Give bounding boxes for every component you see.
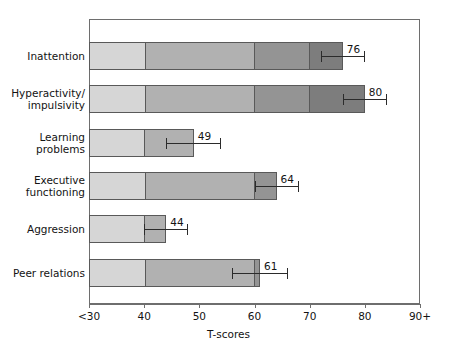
x-tick-mark bbox=[89, 304, 90, 308]
value-bar bbox=[89, 85, 365, 113]
category-label: Hyperactivity/ impulsivity bbox=[0, 87, 85, 112]
bar-value-label: 61 bbox=[264, 261, 277, 272]
x-tick-label: 90+ bbox=[409, 310, 431, 322]
error-bar-line bbox=[343, 99, 387, 100]
error-bar-line bbox=[144, 229, 188, 230]
x-tick-label: 80 bbox=[358, 310, 371, 322]
error-bar-line bbox=[232, 273, 287, 274]
bar-segment bbox=[90, 173, 145, 199]
error-bar-cap bbox=[220, 138, 221, 149]
bar-segment bbox=[90, 43, 145, 69]
error-bar-cap bbox=[166, 138, 167, 149]
bar-value-label: 64 bbox=[281, 174, 294, 185]
error-bar-cap bbox=[287, 268, 288, 279]
bar-segment bbox=[90, 130, 144, 156]
bar-value-label: 80 bbox=[369, 87, 382, 98]
chart-row: Executive functioning64 bbox=[0, 172, 453, 200]
bar-segment bbox=[90, 260, 145, 286]
error-bar-cap bbox=[187, 224, 188, 235]
error-bar-cap bbox=[386, 94, 387, 105]
bar-segment bbox=[145, 173, 254, 199]
value-bar bbox=[89, 172, 277, 200]
chart-row: Hyperactivity/ impulsivity80 bbox=[0, 85, 453, 113]
bar-segment bbox=[254, 86, 309, 112]
x-tick-mark bbox=[199, 304, 200, 308]
x-axis-title: T-scores bbox=[0, 328, 453, 340]
error-bar-line bbox=[321, 56, 365, 57]
bar-segment bbox=[145, 86, 255, 112]
x-tick-label: 50 bbox=[193, 310, 206, 322]
x-tick-label: 40 bbox=[137, 310, 150, 322]
category-label: Peer relations bbox=[0, 267, 85, 280]
error-bar-cap bbox=[298, 181, 299, 192]
error-bar-line bbox=[255, 186, 299, 187]
error-bar-cap bbox=[321, 51, 322, 62]
category-label: Aggression bbox=[0, 223, 85, 236]
error-bar-cap bbox=[255, 181, 256, 192]
error-bar-cap bbox=[343, 94, 344, 105]
x-tick-label: <30 bbox=[78, 310, 100, 322]
category-label: Learning problems bbox=[0, 131, 85, 156]
chart-row: Peer relations61 bbox=[0, 259, 453, 287]
x-tick-label: 70 bbox=[303, 310, 316, 322]
error-bar-cap bbox=[144, 224, 145, 235]
x-tick-mark bbox=[420, 304, 421, 308]
x-tick-mark bbox=[255, 304, 256, 308]
bar-value-label: 49 bbox=[198, 131, 211, 142]
error-bar-cap bbox=[232, 268, 233, 279]
x-tick-label: 60 bbox=[248, 310, 261, 322]
bar-value-label: 76 bbox=[347, 44, 360, 55]
category-label: Executive functioning bbox=[0, 174, 85, 199]
bar-value-label: 44 bbox=[170, 217, 183, 228]
error-bar bbox=[166, 138, 221, 149]
x-tick-mark bbox=[144, 304, 145, 308]
bar-segment bbox=[90, 86, 145, 112]
chart-row: Aggression44 bbox=[0, 215, 453, 243]
error-bar-line bbox=[166, 143, 221, 144]
value-bar bbox=[89, 42, 343, 70]
chart-row: Inattention76 bbox=[0, 42, 453, 70]
bar-segment bbox=[90, 216, 144, 242]
bar-segment bbox=[254, 43, 309, 69]
x-tick-mark bbox=[310, 304, 311, 308]
x-tick-mark bbox=[365, 304, 366, 308]
t-score-bar-chart: Inattention76Hyperactivity/ impulsivity8… bbox=[0, 0, 453, 351]
bar-segment bbox=[145, 43, 254, 69]
x-axis-title-text: T-scores bbox=[207, 328, 250, 340]
error-bar bbox=[232, 268, 287, 279]
chart-row: Learning problems49 bbox=[0, 129, 453, 157]
category-label: Inattention bbox=[0, 50, 85, 63]
error-bar-cap bbox=[364, 51, 365, 62]
